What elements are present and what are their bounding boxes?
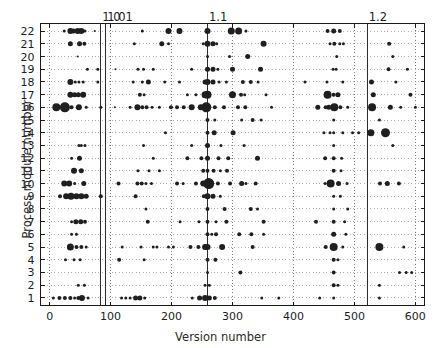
version-marker-label: 1.2 <box>369 10 387 24</box>
y-tick-label: 19 <box>0 63 35 76</box>
version-marker-label: 1.1 <box>209 10 227 24</box>
y-tick-label: 2 <box>0 279 35 292</box>
x-tick-label: 500 <box>344 310 365 323</box>
version-marker-lines <box>101 24 367 306</box>
x-tick-label: 200 <box>161 310 182 323</box>
plot-canvas <box>0 0 441 348</box>
scatter-chart-figure: 0100200300400500600 12345678910111213141… <box>0 0 441 348</box>
y-tick-label: 4 <box>0 253 35 266</box>
y-tick-label: 1 <box>0 291 35 304</box>
y-tick-label: 18 <box>0 75 35 88</box>
y-axis-title: Process module number <box>20 94 34 244</box>
y-tick-label: 22 <box>0 25 35 38</box>
y-tick-label: 20 <box>0 50 35 63</box>
x-tick-label: 100 <box>100 310 121 323</box>
x-tick-label: 600 <box>405 310 426 323</box>
y-tick-label: 3 <box>0 266 35 279</box>
y-tick-label: 21 <box>0 37 35 50</box>
x-tick-label: 400 <box>283 310 304 323</box>
x-tick-label: 0 <box>46 310 53 323</box>
x-tick-label: 300 <box>222 310 243 323</box>
x-axis-title: Version number <box>0 330 441 344</box>
version-marker-label: 1.01 <box>107 10 133 24</box>
